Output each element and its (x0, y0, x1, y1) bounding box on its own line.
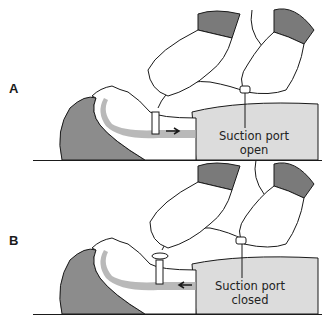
suction-port (236, 237, 246, 244)
callout-line-2: closed (205, 293, 295, 307)
suction-port (240, 86, 250, 93)
callout-line-1: Suction port (209, 129, 299, 143)
suction-port-callout-a: Suction port open (209, 129, 299, 157)
left-glove (148, 30, 232, 96)
callout-line-2: open (209, 143, 299, 157)
panel-letter-b: B (9, 233, 18, 248)
panel-b: B Suction port closed (0, 160, 332, 321)
rotation-indicator (152, 253, 168, 259)
suction-port-callout-b: Suction port closed (205, 279, 295, 307)
panel-letter-a: A (9, 81, 18, 96)
right-glove (241, 32, 304, 94)
tracheal-tube (156, 260, 163, 284)
tracheal-tube (152, 112, 159, 134)
right-glove (239, 186, 304, 247)
left-glove (150, 182, 232, 248)
suction-tubing (251, 10, 262, 46)
callout-line-1: Suction port (205, 279, 295, 293)
panel-a: A Suction port open (0, 0, 332, 161)
suction-tubing (255, 160, 264, 194)
